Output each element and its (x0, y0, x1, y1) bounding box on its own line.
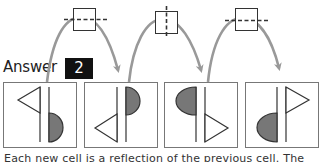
cell-2[interactable] (84, 82, 158, 148)
reflect-vertical-axis-icon (156, 6, 178, 38)
reflect-horizontal-axis-icon (64, 9, 107, 31)
answer-label: Answer (3, 58, 57, 76)
arrow-2-to-3 (129, 19, 201, 82)
reflect-horizontal-axis-icon (225, 9, 268, 31)
puzzle-stage: Answer 2 (0, 0, 321, 162)
cell-4[interactable] (245, 82, 319, 148)
arrow-3-to-4 (208, 18, 279, 82)
cell-1[interactable] (3, 82, 77, 148)
answer-badge: 2 (65, 58, 93, 79)
explanation-caption: Each new cell is a reflection of the pre… (4, 152, 304, 162)
cell-3[interactable] (164, 82, 238, 148)
